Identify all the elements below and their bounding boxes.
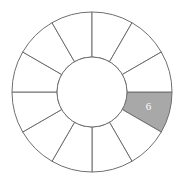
segmented-ring-figure: 6 — [0, 0, 184, 187]
segment-labels: 6 — [146, 100, 152, 112]
segment-value-label: 6 — [146, 100, 152, 112]
segmented-ring-chart: 6 — [0, 0, 184, 187]
ring-hub — [57, 57, 127, 127]
